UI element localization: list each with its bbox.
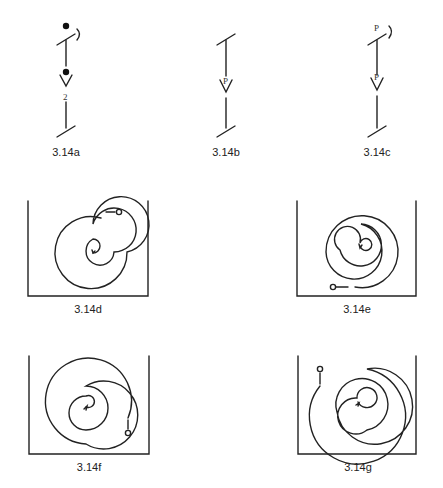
figure-label-d: 3.14d (58, 303, 118, 315)
figure-label-a: 3.14a (36, 146, 96, 158)
figure-3-14e-diagram (297, 201, 416, 296)
start-circle-icon (125, 430, 130, 435)
spiral-arrow-icon (359, 244, 362, 248)
figure-label-b: 3.14b (196, 146, 256, 158)
start-circle-icon (330, 284, 335, 289)
annotation-p: P (374, 23, 379, 33)
figure-label-f: 3.14f (59, 461, 119, 473)
start-circle-icon (116, 209, 121, 214)
dot-icon (63, 23, 69, 29)
figure-label-g: 3.14g (328, 461, 388, 473)
figure-label-e: 3.14e (327, 303, 387, 315)
spiral-arrow-icon (356, 403, 359, 406)
breath-mark-icon (77, 29, 80, 40)
start-circle-icon (317, 366, 322, 371)
figure-3-14d-diagram (28, 197, 149, 296)
annotation-p: P (374, 72, 379, 82)
figure-label-c: 3.14c (347, 146, 407, 158)
figure-3-14c-diagram (368, 26, 392, 137)
figure-3-14g-diagram (298, 356, 416, 464)
figure-canvas: 2 P P P (0, 0, 443, 488)
spiral-arrow-icon (84, 406, 87, 410)
v-arrow-icon (60, 75, 72, 86)
figure-3-14f-diagram (29, 356, 149, 454)
annotation-p: P (223, 76, 228, 86)
breath-mark-icon (389, 26, 392, 38)
annotation-2: 2 (63, 92, 68, 102)
dot-icon (63, 69, 69, 75)
figure-3-14a-diagram (57, 23, 80, 137)
